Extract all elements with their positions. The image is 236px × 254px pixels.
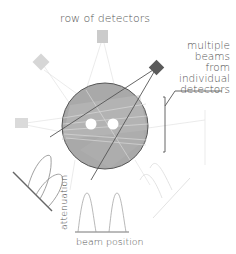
hole-right [108,119,119,130]
annotation-line-5: detectors [150,84,230,95]
upper-left-detector [33,54,50,71]
left-detector [15,118,28,128]
right-annotation: multiple beams from individual detectors [150,40,230,95]
hole-left [86,119,97,130]
lower-right-profile [140,163,190,218]
top-detector [97,30,108,43]
y-axis-label: attenuation [58,175,69,230]
lower-left-profile [13,155,63,211]
title-label: row of detectors [0,13,210,24]
x-axis-label: beam position [76,236,144,247]
bottom-profile [75,193,129,232]
